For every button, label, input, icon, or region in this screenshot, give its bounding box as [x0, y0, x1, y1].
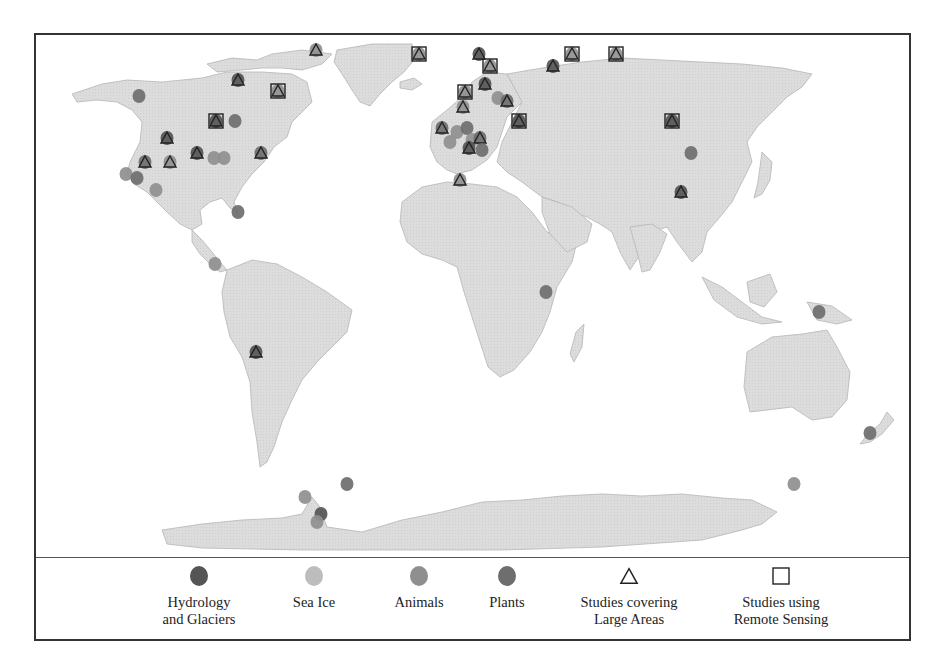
- map-marker-hydrology: [232, 73, 245, 87]
- map-marker-hydrology: [479, 77, 492, 91]
- map-marker-plants: [501, 94, 514, 108]
- map-marker-plants: [133, 89, 146, 103]
- land-borneo: [747, 274, 777, 307]
- land-new-zealand: [860, 412, 894, 444]
- map-marker-animals: [454, 173, 467, 187]
- map-marker-plants: [461, 121, 474, 135]
- map-marker-hydrology: [250, 345, 263, 359]
- legend-label-plants: Plants: [489, 594, 524, 611]
- legend: Hydrology and Glaciers Sea Ice Animals P…: [36, 559, 909, 639]
- map-marker-animals: [310, 43, 323, 57]
- map-marker-plants: [255, 146, 268, 160]
- map-svg: [36, 35, 909, 557]
- map-marker-animals: [444, 135, 457, 149]
- map-marker-animals: [483, 59, 497, 73]
- map-marker-hydrology: [675, 185, 688, 199]
- triangle-icon: [619, 566, 639, 586]
- circle-icon: [409, 566, 429, 586]
- land-japan: [754, 152, 772, 198]
- map-marker-hydrology: [161, 131, 174, 145]
- land-iceland: [400, 78, 422, 90]
- legend-item-animals: Animals: [374, 559, 464, 611]
- land-madagascar: [570, 324, 584, 362]
- world-map: [36, 35, 909, 557]
- legend-item-hydrology: Hydrology and Glaciers: [139, 559, 259, 628]
- map-marker-hydrology: [191, 146, 204, 160]
- circle-icon: [304, 566, 324, 586]
- map-marker-animals: [299, 490, 312, 504]
- map-marker-hydrology: [547, 59, 560, 73]
- square-icon: [771, 566, 791, 586]
- circle-icon: [497, 566, 517, 586]
- map-marker-plants: [864, 426, 877, 440]
- map-marker-plants: [232, 205, 245, 219]
- map-marker-hydrology: [463, 141, 476, 155]
- map-marker-plants: [474, 131, 487, 145]
- legend-item-remote-sensing: Studies using Remote Sensing: [711, 559, 851, 628]
- land-australia: [744, 330, 850, 420]
- legend-item-large-areas: Studies covering Large Areas: [564, 559, 694, 628]
- map-marker-plants: [436, 121, 449, 135]
- legend-label-sea-ice: Sea Ice: [293, 594, 335, 611]
- map-marker-animals: [412, 47, 426, 61]
- map-marker-plants: [229, 114, 242, 128]
- map-marker-animals: [150, 183, 163, 197]
- map-marker-plants: [476, 143, 489, 157]
- legend-label-remote-sensing: Studies using Remote Sensing: [734, 594, 829, 628]
- map-marker-animals: [209, 257, 222, 271]
- land-india: [630, 224, 667, 272]
- figure-frame: Hydrology and Glaciers Sea Ice Animals P…: [34, 33, 911, 641]
- map-marker-animals: [218, 151, 231, 165]
- map-marker-animals: [609, 47, 623, 61]
- map-marker-animals: [311, 515, 324, 529]
- map-marker-plants: [813, 305, 826, 319]
- map-marker-plants: [685, 146, 698, 160]
- map-marker-animals: [120, 167, 133, 181]
- map-marker-plants: [131, 171, 144, 185]
- map-marker-animals: [565, 47, 579, 61]
- map-marker-animals: [788, 477, 801, 491]
- land-south-america: [222, 260, 352, 467]
- legend-item-sea-ice: Sea Ice: [269, 559, 359, 611]
- legend-label-animals: Animals: [394, 594, 443, 611]
- map-marker-plants: [540, 285, 553, 299]
- land-greenland: [334, 44, 414, 106]
- legend-divider: [36, 557, 909, 558]
- map-marker-plants: [341, 477, 354, 491]
- map-marker-animals: [164, 155, 177, 169]
- map-marker-animals: [457, 100, 470, 114]
- map-marker-plants: [139, 155, 152, 169]
- legend-item-plants: Plants: [467, 559, 547, 611]
- land-antarctica: [162, 494, 777, 550]
- legend-label-hydrology: Hydrology and Glaciers: [163, 594, 236, 628]
- circle-icon: [189, 566, 209, 586]
- legend-label-large-areas: Studies covering Large Areas: [580, 594, 677, 628]
